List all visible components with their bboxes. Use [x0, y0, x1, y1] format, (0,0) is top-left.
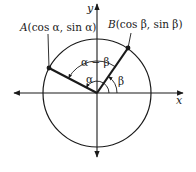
y-axis-label: y	[86, 2, 94, 15]
point-b-coords: (cos β, sin β)	[116, 18, 183, 30]
point-b-label: B(cos β, sin β)	[107, 18, 183, 30]
angle-difference-label: α − β	[81, 56, 110, 68]
point-b	[126, 46, 131, 51]
leader-line-a	[48, 34, 49, 68]
angle-alpha-label: α	[86, 73, 93, 85]
point-a	[47, 66, 52, 71]
point-b-name: B	[107, 18, 116, 30]
angle-beta-label: β	[118, 75, 124, 87]
point-a-coords: (cos α, sin α)	[28, 21, 97, 33]
unit-circle-diagram: x y A(cos α, sin α) B(cos β, sin β) α − …	[0, 0, 196, 172]
arc-beta	[108, 77, 117, 93]
point-a-label: A(cos α, sin α)	[19, 21, 96, 33]
x-axis-label: x	[176, 94, 183, 107]
